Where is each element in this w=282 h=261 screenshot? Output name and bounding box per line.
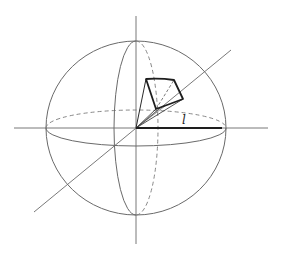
radius-label: l: [182, 113, 186, 127]
solid-angle-diagram: l: [0, 0, 282, 261]
